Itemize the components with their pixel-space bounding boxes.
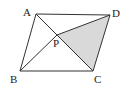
label-c: C [94,73,101,85]
label-d: D [112,7,120,19]
label-p: P [53,37,59,49]
label-b: B [10,73,17,85]
geometry-diagram: A D B C P [0,0,129,87]
label-a: A [23,6,31,18]
